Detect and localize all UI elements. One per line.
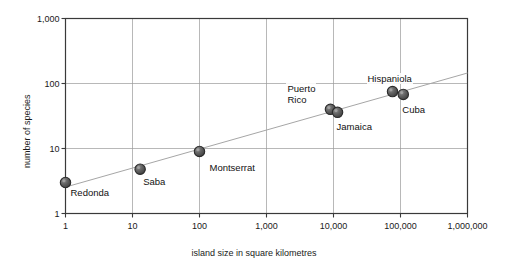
x-tick-label: 10 bbox=[127, 221, 137, 231]
x-axis-title: island size in square kilometres bbox=[0, 248, 508, 258]
y-tick-label: 100 bbox=[10, 79, 60, 89]
data-point-marker bbox=[194, 146, 204, 156]
point-label-line: Puerto bbox=[287, 83, 315, 94]
point-label-line: Rico bbox=[287, 94, 315, 105]
data-point-marker bbox=[60, 177, 70, 187]
point-label-line: Hispaniola bbox=[368, 73, 412, 84]
data-point-marker bbox=[332, 107, 342, 117]
species-area-chart: 1101001,0001101001,00010,000100,0001,000… bbox=[0, 0, 508, 271]
point-label-line: Cuba bbox=[402, 104, 425, 115]
y-tick-label: 1 bbox=[10, 209, 60, 219]
point-label-line: Jamaica bbox=[337, 121, 372, 132]
y-tick-label: 10 bbox=[10, 144, 60, 154]
data-point-marker bbox=[387, 86, 397, 96]
marker-highlight bbox=[62, 179, 65, 182]
marker-highlight bbox=[327, 106, 330, 109]
point-label-line: Montserrat bbox=[210, 162, 255, 173]
x-tick-label: 1 bbox=[63, 221, 68, 231]
point-label-line: Redonda bbox=[71, 187, 110, 198]
point-label-cuba: Cuba bbox=[401, 104, 426, 115]
point-label-line: Saba bbox=[143, 176, 165, 187]
point-label-redonda: Redonda bbox=[70, 187, 111, 198]
point-label-jamaica: Jamaica bbox=[336, 121, 373, 132]
point-label-saba: Saba bbox=[142, 176, 166, 187]
x-tick-label: 100,000 bbox=[384, 221, 417, 231]
marker-highlight bbox=[137, 166, 140, 169]
plot-svg bbox=[0, 0, 508, 271]
point-label-montserrat: Montserrat bbox=[209, 162, 256, 173]
x-tick-label: 100 bbox=[192, 221, 207, 231]
tick-marks bbox=[62, 19, 468, 218]
gridlines bbox=[66, 19, 468, 214]
marker-highlight bbox=[196, 148, 199, 151]
x-tick-label: 1,000,000 bbox=[447, 221, 487, 231]
x-tick-label: 10,000 bbox=[320, 221, 348, 231]
x-tick-label: 1,000 bbox=[255, 221, 278, 231]
point-label-puerto-rico: PuertoRico bbox=[286, 83, 316, 105]
marker-highlight bbox=[334, 109, 337, 112]
point-label-hispaniola: Hispaniola bbox=[367, 73, 413, 84]
y-axis-title: number of species bbox=[22, 94, 32, 168]
marker-highlight bbox=[400, 91, 403, 94]
data-point-marker bbox=[135, 164, 145, 174]
data-point-marker bbox=[398, 89, 408, 99]
y-tick-label: 1,000 bbox=[10, 14, 60, 24]
marker-highlight bbox=[389, 88, 392, 91]
